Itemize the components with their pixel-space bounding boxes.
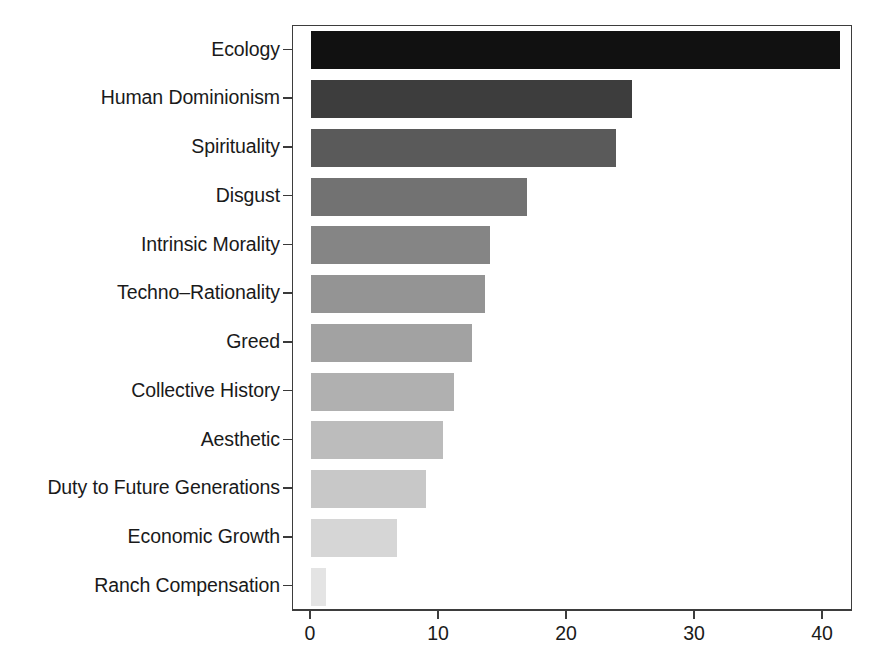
category-label-text: Duty to Future Generations xyxy=(47,478,280,498)
bar xyxy=(311,129,616,167)
category-label-text: Ecology xyxy=(211,40,280,60)
category-label-text: Spirituality xyxy=(191,137,280,157)
category-tick xyxy=(283,49,292,50)
plot-panel xyxy=(292,25,852,610)
x-tick xyxy=(821,610,822,619)
bar xyxy=(311,519,397,557)
category-tick xyxy=(283,97,292,98)
bar xyxy=(311,373,454,411)
x-tick xyxy=(309,610,310,619)
bar-chart-figure: EcologyHuman DominionismSpiritualityDisg… xyxy=(0,0,872,670)
x-tick xyxy=(565,610,566,619)
x-axis: 010203040 xyxy=(292,610,852,670)
category-tick xyxy=(283,536,292,537)
x-axis-line xyxy=(292,610,852,611)
category-tick xyxy=(283,390,292,391)
category-tick xyxy=(283,341,292,342)
x-tick-label-20: 20 xyxy=(555,624,577,644)
bar xyxy=(311,226,490,264)
category-label-text: Economic Growth xyxy=(128,527,280,547)
bar xyxy=(311,80,632,118)
category-tick xyxy=(283,146,292,147)
category-tick xyxy=(283,487,292,488)
category-label-text: Techno–Rationality xyxy=(117,283,280,303)
category-label-text: Intrinsic Morality xyxy=(141,235,280,255)
category-label-text: Disgust xyxy=(216,186,280,206)
bar xyxy=(311,421,443,459)
category-label-text: Ranch Compensation xyxy=(94,576,280,596)
bars-layer xyxy=(293,26,851,609)
category-axis: EcologyHuman DominionismSpiritualityDisg… xyxy=(0,0,292,670)
category-tick xyxy=(283,195,292,196)
category-label-text: Aesthetic xyxy=(201,430,280,450)
category-label-text: Greed xyxy=(226,332,280,352)
x-tick-label-30: 30 xyxy=(683,624,705,644)
category-tick xyxy=(283,292,292,293)
bar xyxy=(311,470,426,508)
category-label-text: Human Dominionism xyxy=(101,88,280,108)
x-tick xyxy=(437,610,438,619)
bar xyxy=(311,568,326,606)
x-tick xyxy=(693,610,694,619)
bar xyxy=(311,324,472,362)
bar xyxy=(311,31,840,69)
bar xyxy=(311,178,527,216)
x-tick-label-0: 0 xyxy=(305,624,316,644)
category-tick xyxy=(283,439,292,440)
category-tick xyxy=(283,244,292,245)
x-tick-label-10: 10 xyxy=(427,624,449,644)
x-tick-label-40: 40 xyxy=(811,624,833,644)
bar xyxy=(311,275,485,313)
category-label-text: Collective History xyxy=(131,381,280,401)
category-tick xyxy=(283,585,292,586)
